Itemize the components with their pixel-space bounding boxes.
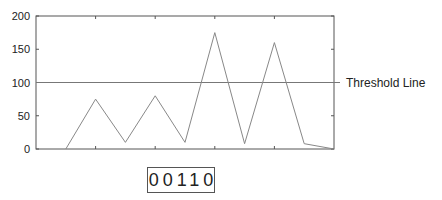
y-tick-label: 150	[12, 43, 30, 55]
y-tick-label: 200	[12, 10, 30, 22]
y-tick-label: 100	[12, 77, 30, 89]
threshold-label: Threshold Line	[346, 76, 426, 90]
counter-display: 00110	[147, 167, 215, 193]
line-chart: 050100150200Threshold Line	[0, 0, 442, 160]
y-tick-label: 50	[18, 110, 30, 122]
data-line	[66, 33, 334, 149]
y-tick-label: 0	[24, 143, 30, 155]
